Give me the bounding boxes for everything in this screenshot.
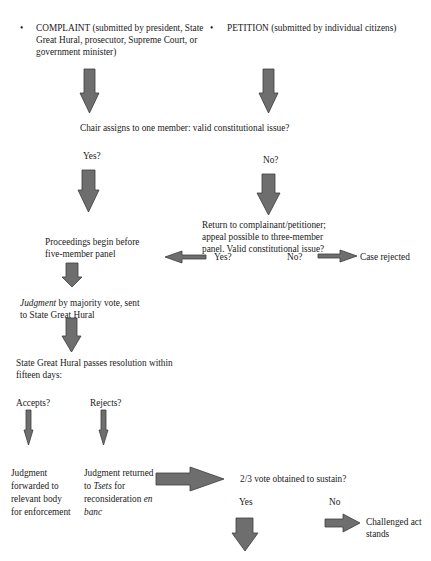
down-arrow-icon	[62, 263, 82, 287]
down-arrow-icon	[80, 69, 99, 113]
down-arrow-icon	[232, 518, 258, 551]
flow-arrows	[0, 0, 431, 561]
left-arrow-icon	[165, 251, 206, 263]
down-arrow-icon	[99, 410, 108, 445]
right-arrow-icon	[325, 514, 360, 532]
right-arrow-icon	[318, 250, 357, 262]
down-arrow-icon	[24, 410, 33, 445]
down-arrow-icon	[78, 170, 99, 212]
down-arrow-icon	[62, 318, 81, 352]
right-arrow-icon	[156, 467, 224, 491]
down-arrow-icon	[259, 69, 278, 113]
down-arrow-icon	[257, 174, 280, 215]
